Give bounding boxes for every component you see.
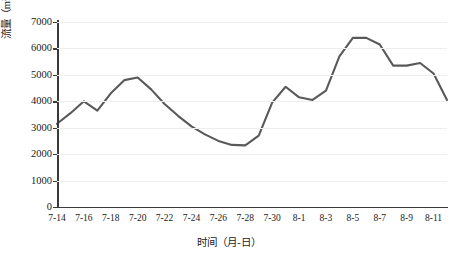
- y-tick-mark: [53, 75, 57, 76]
- x-tick-label: 8-9: [400, 213, 413, 223]
- x-tick-label: 8-11: [425, 213, 442, 223]
- gridline: [57, 101, 447, 102]
- x-tick-label: 8-1: [293, 213, 306, 223]
- x-tick-label: 7-24: [183, 213, 200, 223]
- x-axis-line: [57, 207, 448, 208]
- data-series-line: [57, 22, 447, 207]
- gridline: [57, 128, 447, 129]
- plot-area: [57, 22, 447, 207]
- y-tick-mark: [53, 101, 57, 102]
- flow-rate-line-chart: 01000200030004000500060007000 7-147-167-…: [0, 0, 458, 258]
- x-tick-label: 7-16: [75, 213, 92, 223]
- y-tick-mark: [53, 154, 57, 155]
- y-axis-title-text: 流量（m3/s）: [1, 0, 12, 39]
- y-tick-label: 0: [0, 202, 60, 212]
- x-tick-label: 7-20: [129, 213, 146, 223]
- y-tick-mark: [53, 207, 57, 208]
- y-tick-mark: [53, 48, 57, 49]
- gridline: [57, 22, 447, 23]
- y-tick-mark: [53, 181, 57, 182]
- x-tick-label: 8-7: [373, 213, 386, 223]
- x-tick-label: 7-14: [48, 213, 65, 223]
- x-tick-label: 7-30: [263, 213, 280, 223]
- gridline: [57, 181, 447, 182]
- y-tick-label: 1000: [0, 176, 60, 186]
- gridline: [57, 48, 447, 49]
- gridline: [57, 154, 447, 155]
- y-tick-mark: [53, 22, 57, 23]
- y-axis-title: 流量（m3/s）: [0, 0, 13, 70]
- y-tick-mark: [53, 128, 57, 129]
- x-tick-label: 7-22: [156, 213, 173, 223]
- y-tick-label: 3000: [0, 123, 60, 133]
- x-tick-label: 7-18: [102, 213, 119, 223]
- y-tick-label: 2000: [0, 149, 60, 159]
- x-tick-label: 7-28: [237, 213, 254, 223]
- x-tick-label: 8-3: [320, 213, 333, 223]
- y-tick-label: 5000: [0, 70, 60, 80]
- gridline: [57, 75, 447, 76]
- series-polyline-flow: [57, 38, 447, 146]
- x-tick-label: 7-26: [210, 213, 227, 223]
- y-tick-label: 4000: [0, 96, 60, 106]
- x-tick-label: 8-5: [347, 213, 360, 223]
- x-axis-title: 时间（月-日）: [0, 234, 458, 249]
